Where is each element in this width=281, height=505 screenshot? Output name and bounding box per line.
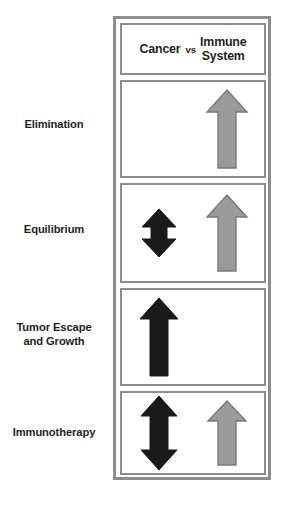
cancer-up-down-arrow-icon: [141, 208, 177, 258]
cancer-arrow-slot-immunotherapy: [128, 393, 190, 473]
immune-arrow-slot-tumor-escape: [196, 290, 258, 384]
stage-label-line1: Immunotherapy: [0, 426, 108, 440]
immune-up-arrow-icon: [206, 399, 248, 467]
header-immune-label-line2: System: [200, 49, 246, 63]
stage-label-immunotherapy: Immunotherapy: [0, 426, 108, 440]
cancer-up-arrow-icon: [138, 296, 180, 378]
panel-equilibrium: [120, 183, 266, 283]
immune-arrow-slot-immunotherapy: [196, 393, 258, 473]
stage-label-line1: Equilibrium: [0, 223, 108, 237]
cancer-arrow-slot-equilibrium: [128, 185, 190, 281]
header-vs-label: vs: [185, 44, 196, 55]
immune-up-arrow-icon: [205, 193, 249, 273]
cancer-up-down-arrow-icon: [139, 395, 179, 471]
immune-arrow-slot-equilibrium: [196, 185, 258, 281]
panel-immunotherapy: [120, 391, 266, 475]
immune-up-arrow-icon: [205, 88, 249, 170]
panel-elimination: [120, 80, 266, 178]
stage-label-line1: Elimination: [0, 118, 108, 132]
header-immune-label: Immune System: [200, 35, 246, 63]
header-immune-label-line1: Immune: [200, 35, 246, 49]
panel-tumor-escape: [120, 288, 266, 386]
stage-label-equilibrium: Equilibrium: [0, 223, 108, 237]
stage-label-elimination: Elimination: [0, 118, 108, 132]
stage-label-tumor-escape: Tumor Escape and Growth: [0, 321, 108, 348]
stage-label-column: Elimination Equilibrium Tumor Escape and…: [0, 0, 112, 505]
cancer-arrow-slot-tumor-escape: [128, 290, 190, 384]
immune-arrow-slot-elimination: [196, 82, 258, 176]
stage-label-line1: Tumor Escape: [0, 321, 108, 335]
stage-label-line2: and Growth: [0, 335, 108, 349]
cancer-immunoediting-figure: Elimination Equilibrium Tumor Escape and…: [0, 0, 281, 505]
header-panel: Cancer vs Immune System: [120, 23, 266, 75]
diagram-frame: Cancer vs Immune System: [113, 16, 271, 480]
header-cancer-label: Cancer: [140, 42, 181, 56]
cancer-arrow-slot-elimination: [128, 82, 190, 176]
